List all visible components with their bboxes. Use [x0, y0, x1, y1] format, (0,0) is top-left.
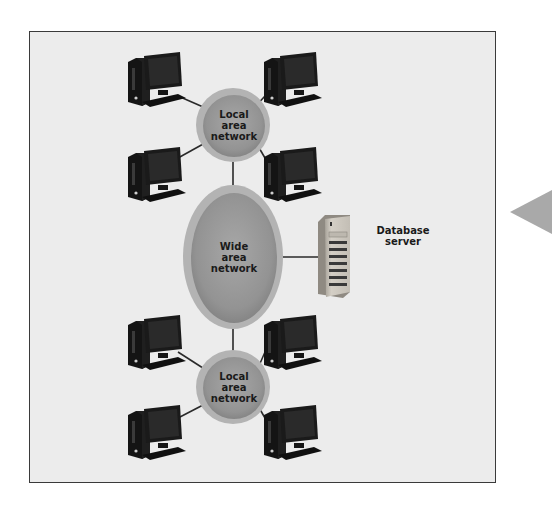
computer-icon: [128, 405, 186, 460]
computer-icon: [264, 52, 322, 107]
network-diagram: [0, 0, 552, 512]
computer-icon: [264, 405, 322, 460]
wan-label: Wide area network: [203, 241, 265, 274]
computer-icon: [128, 147, 186, 202]
computer-icon: [264, 147, 322, 202]
lan-top-label: Local area network: [203, 109, 265, 142]
database-server-label: Database server: [370, 225, 436, 247]
computer-icon: [128, 52, 186, 107]
computer-icon: [264, 315, 322, 370]
computer-icon: [128, 315, 186, 370]
side-arrow-icon: [510, 190, 552, 234]
lan-bottom-label: Local area network: [203, 371, 265, 404]
database-server-icon: [318, 215, 350, 298]
